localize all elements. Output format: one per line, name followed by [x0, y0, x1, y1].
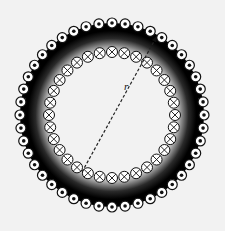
dot-conductor-icon	[145, 194, 155, 204]
dot-conductor-icon	[37, 50, 47, 60]
dot-conductor-icon	[191, 148, 201, 158]
dot-conductor-icon	[30, 60, 40, 70]
dot-conductor-icon	[16, 97, 26, 107]
dot-conductor-icon	[16, 123, 26, 133]
dot-conductor-icon	[177, 50, 187, 60]
dot-conductor-icon	[23, 148, 33, 158]
cross-conductor-icon	[82, 51, 93, 62]
dot-conductor-icon	[47, 180, 57, 190]
dot-conductor-icon	[167, 180, 177, 190]
dot-conductor-icon	[184, 160, 194, 170]
dot-conductor-icon	[47, 40, 57, 50]
cross-conductor-icon	[54, 74, 65, 85]
cross-conductor-icon	[159, 145, 170, 156]
dot-conductor-icon	[195, 84, 205, 94]
cross-conductor-icon	[54, 145, 65, 156]
cross-conductor-icon	[142, 57, 153, 68]
dot-conductor-icon	[81, 198, 91, 208]
cross-conductor-icon	[62, 65, 73, 76]
cross-conductor-icon	[82, 168, 93, 179]
cross-conductor-icon	[62, 154, 73, 165]
cross-conductor-icon	[131, 51, 142, 62]
dot-conductor-icon	[57, 33, 67, 43]
dot-conductor-icon	[157, 33, 167, 43]
cross-conductor-icon	[165, 134, 176, 145]
dot-conductor-icon	[30, 160, 40, 170]
dot-conductor-icon	[145, 26, 155, 36]
cross-conductor-icon	[151, 154, 162, 165]
cross-conductor-icon	[48, 85, 59, 96]
cross-conductor-icon	[44, 110, 55, 121]
dot-conductor-icon	[19, 136, 29, 146]
radius-label: r	[124, 80, 128, 92]
dot-conductor-icon	[133, 198, 143, 208]
dot-conductor-icon	[184, 60, 194, 70]
dot-conductor-icon	[195, 136, 205, 146]
toroid-svg	[0, 0, 225, 231]
dot-conductor-icon	[81, 22, 91, 32]
toroid-diagram: r	[0, 0, 225, 231]
cross-conductor-icon	[119, 171, 130, 182]
dot-conductor-icon	[157, 187, 167, 197]
cross-conductor-icon	[159, 74, 170, 85]
cross-conductor-icon	[170, 110, 181, 121]
cross-conductor-icon	[71, 162, 82, 173]
dot-conductor-icon	[120, 19, 130, 29]
cross-conductor-icon	[165, 85, 176, 96]
dot-conductor-icon	[15, 110, 25, 120]
dot-conductor-icon	[133, 22, 143, 32]
dot-conductor-icon	[23, 72, 33, 82]
dot-conductor-icon	[107, 202, 117, 212]
cross-conductor-icon	[107, 47, 118, 58]
dot-conductor-icon	[94, 19, 104, 29]
dot-conductor-icon	[19, 84, 29, 94]
cross-conductor-icon	[71, 57, 82, 68]
cross-conductor-icon	[168, 97, 179, 108]
cross-conductor-icon	[94, 171, 105, 182]
dot-conductor-icon	[198, 123, 208, 133]
dot-conductor-icon	[120, 201, 130, 211]
cross-conductor-icon	[107, 173, 118, 184]
cross-conductor-icon	[45, 97, 56, 108]
dot-conductor-icon	[198, 97, 208, 107]
dot-conductor-icon	[37, 170, 47, 180]
cross-conductor-icon	[94, 48, 105, 59]
dot-conductor-icon	[57, 187, 67, 197]
dot-conductor-icon	[191, 72, 201, 82]
dot-conductor-icon	[94, 201, 104, 211]
dot-conductor-icon	[69, 26, 79, 36]
cross-conductor-icon	[119, 48, 130, 59]
cross-conductor-icon	[131, 168, 142, 179]
cross-conductor-icon	[142, 162, 153, 173]
dot-conductor-icon	[69, 194, 79, 204]
dot-conductor-icon	[167, 40, 177, 50]
cross-conductor-icon	[151, 65, 162, 76]
dot-conductor-icon	[199, 110, 209, 120]
dot-conductor-icon	[107, 18, 117, 28]
cross-conductor-icon	[45, 122, 56, 133]
cross-conductor-icon	[48, 134, 59, 145]
cross-conductor-icon	[168, 122, 179, 133]
dot-conductor-icon	[177, 170, 187, 180]
